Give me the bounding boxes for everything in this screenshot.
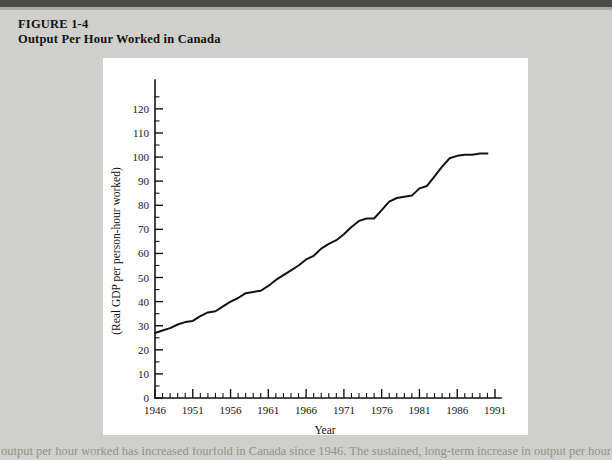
y-axis: 0102030405060708090100110120 (133, 80, 164, 404)
y-tick-label: 90 (138, 175, 150, 187)
y-axis-title: (Real GDP per person-hour worked) (110, 167, 123, 335)
x-tick-label: 1976 (371, 404, 394, 416)
figure-label: FIGURE 1-4 (18, 17, 398, 32)
page-footer-text: output per hour worked has increased fou… (0, 447, 612, 460)
y-tick-label: 40 (138, 296, 150, 308)
x-axis: 1946195119561961196619711976198119861991 (144, 389, 506, 416)
x-tick-label: 1946 (144, 404, 167, 416)
x-tick-label: 1986 (446, 404, 469, 416)
y-tick-label: 20 (138, 344, 150, 356)
line-chart: 0102030405060708090100110120 19461951195… (103, 58, 528, 435)
x-tick-label: 1956 (220, 404, 243, 416)
figure-caption: FIGURE 1-4 Output Per Hour Worked in Can… (18, 17, 398, 48)
chart-panel: 0102030405060708090100110120 19461951195… (103, 58, 528, 435)
y-tick-label: 100 (133, 151, 150, 163)
page-top-rule-shadow (0, 7, 612, 10)
page-top-rule (0, 0, 612, 7)
y-tick-label: 120 (133, 103, 150, 115)
page-footer-label: output per hour worked has increased fou… (1, 447, 611, 459)
x-axis-title: Year (314, 424, 335, 435)
y-tick-label: 110 (133, 127, 150, 139)
series-line (155, 153, 487, 333)
x-tick-label: 1971 (333, 404, 355, 416)
y-tick-label: 70 (138, 223, 150, 235)
y-tick-label: 60 (138, 247, 150, 259)
x-tick-label: 1961 (257, 404, 279, 416)
x-tick-label: 1991 (484, 404, 506, 416)
x-tick-label: 1966 (295, 404, 318, 416)
y-tick-label: 10 (138, 368, 150, 380)
y-tick-label: 80 (138, 199, 150, 211)
y-tick-label: 50 (138, 272, 150, 284)
y-tick-label: 30 (138, 320, 150, 332)
x-tick-label: 1981 (408, 404, 430, 416)
y-tick-label: 0 (144, 392, 150, 404)
data-series (155, 153, 487, 333)
x-tick-label: 1951 (182, 404, 204, 416)
figure-title: Output Per Hour Worked in Canada (18, 32, 398, 47)
